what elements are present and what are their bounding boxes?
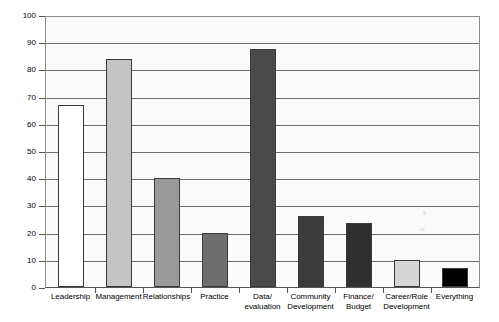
x-axis-label: Practice — [191, 292, 239, 302]
x-axis-label: Relationships — [143, 292, 191, 302]
y-tick-mark-10 — [39, 261, 45, 262]
y-tick-mark-90 — [39, 43, 45, 44]
x-axis-label-line: Management — [95, 292, 143, 302]
x-axis-label: Management — [95, 292, 143, 302]
y-tick-mark-40 — [39, 179, 45, 180]
bar[interactable] — [442, 268, 468, 287]
y-tick-label-80: 80 — [6, 66, 36, 74]
y-tick-label-50: 50 — [6, 148, 36, 156]
x-axis-label-line: Practice — [191, 292, 239, 302]
bar[interactable] — [202, 233, 228, 287]
bar-slot — [335, 16, 383, 287]
x-axis-label-line: evaluation — [239, 302, 287, 312]
bar-chart: Number of comments 010203040506070809010… — [0, 0, 499, 322]
bar[interactable] — [106, 59, 132, 287]
y-tick-mark-0 — [39, 288, 45, 289]
bar[interactable] — [154, 178, 180, 287]
y-tick-mark-80 — [39, 70, 45, 71]
bar-slot — [239, 16, 287, 287]
y-tick-label-60: 60 — [6, 121, 36, 129]
y-tick-label-90: 90 — [6, 39, 36, 47]
x-axis-label-line: Budget — [335, 302, 383, 312]
x-axis-label-line: Finance/ — [335, 292, 383, 302]
bar-slot — [383, 16, 431, 287]
bar[interactable] — [250, 49, 276, 287]
bar[interactable] — [298, 216, 324, 287]
bar[interactable] — [394, 260, 420, 287]
x-axis-label: CommunityDevelopment — [287, 292, 335, 312]
y-tick-label-70: 70 — [6, 94, 36, 102]
y-tick-label-100: 100 — [6, 12, 36, 20]
y-tick-mark-20 — [39, 234, 45, 235]
y-tick-mark-30 — [39, 206, 45, 207]
bar-slot — [287, 16, 335, 287]
y-tick-mark-50 — [39, 152, 45, 153]
x-axis-label: Data/evaluation — [239, 292, 287, 312]
bars-layer — [47, 16, 479, 287]
y-tick-mark-60 — [39, 125, 45, 126]
bar[interactable] — [58, 105, 84, 287]
x-axis-label-line: Community — [287, 292, 335, 302]
x-axis-label-line: Leadership — [47, 292, 95, 302]
x-axis-label-line: Career/Role — [383, 292, 431, 302]
x-axis-label-line: Development — [287, 302, 335, 312]
y-tick-label-0: 0 — [6, 284, 36, 292]
bar-slot — [143, 16, 191, 287]
y-tick-label-30: 30 — [6, 202, 36, 210]
y-tick-label-20: 20 — [6, 230, 36, 238]
y-axis-tick-labels: 0102030405060708090100 — [0, 16, 36, 288]
y-tick-label-10: 10 — [6, 257, 36, 265]
scan-speckle — [420, 228, 425, 231]
bar[interactable] — [346, 223, 372, 287]
x-axis-label: Finance/Budget — [335, 292, 383, 312]
x-axis-label: Everything — [431, 292, 479, 302]
x-axis-label-line: Relationships — [143, 292, 191, 302]
bar-slot — [47, 16, 95, 287]
x-axis-label-line: Development — [383, 302, 431, 312]
x-axis-label-line: Data/ — [239, 292, 287, 302]
bar-slot — [191, 16, 239, 287]
x-axis-label: Career/RoleDevelopment — [383, 292, 431, 312]
y-tick-mark-70 — [39, 98, 45, 99]
bar-slot — [95, 16, 143, 287]
y-tick-label-40: 40 — [6, 175, 36, 183]
x-axis-label-line: Everything — [431, 292, 479, 302]
y-tick-mark-100 — [39, 16, 45, 17]
scan-speckle — [423, 211, 426, 215]
bar-slot — [431, 16, 479, 287]
x-axis-label: Leadership — [47, 292, 95, 302]
